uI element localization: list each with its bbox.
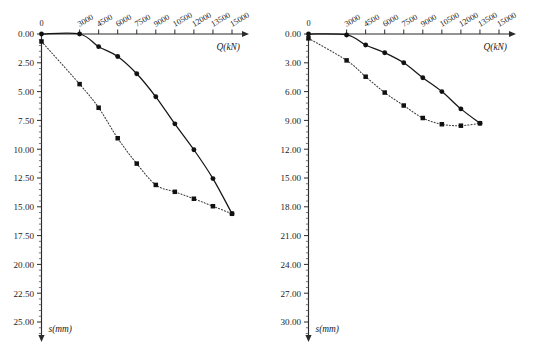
y-tick-label: 20.00	[14, 260, 35, 270]
x-axis-arrow-icon	[242, 31, 249, 37]
y-tick-label: 3.00	[285, 58, 301, 68]
y-tick-label: 0.00	[18, 29, 34, 39]
x-tick-label: 6000	[114, 13, 133, 29]
x-tick-label: 3000	[76, 13, 95, 29]
y-tick-label: 5.00	[18, 87, 34, 97]
x-tick-label: 15000	[496, 11, 518, 29]
data-point-marker	[363, 74, 368, 79]
y-tick-label: 10.00	[14, 145, 35, 155]
data-point-marker	[154, 183, 159, 188]
x-tick-label: 9000	[152, 13, 171, 29]
series-line-dotted-curve	[42, 41, 233, 213]
data-point-marker	[173, 190, 178, 195]
x-tick-label: 4500	[362, 13, 381, 29]
data-point-marker	[363, 43, 368, 48]
chart-panel-right: 0300045006000750090001050012000135001500…	[267, 0, 534, 364]
y-tick-label: 30.00	[281, 317, 302, 327]
x-tick-label: 4500	[95, 13, 114, 29]
data-point-marker	[382, 50, 387, 55]
y-tick-label: 21.00	[281, 231, 302, 241]
y-tick-label: 12.00	[281, 145, 302, 155]
y-axis-arrow-icon	[38, 335, 44, 342]
x-axis-title: Q(kN)	[484, 42, 507, 53]
figure-container: 0300045006000750090001050012000135001500…	[0, 0, 534, 364]
y-tick-label: 2.50	[18, 58, 34, 68]
y-tick-label: 0.00	[285, 29, 301, 39]
chart-right-canvas: 0300045006000750090001050012000135001500…	[267, 0, 534, 364]
x-tick-label: 15000	[229, 11, 251, 29]
chart-left-canvas: 0300045006000750090001050012000135001500…	[0, 0, 267, 364]
data-point-marker	[402, 103, 407, 108]
y-tick-label: 15.00	[14, 202, 35, 212]
y-tick-label: 15.00	[281, 173, 302, 183]
y-tick-label: 6.00	[285, 87, 301, 97]
data-point-marker	[77, 32, 82, 37]
data-point-marker	[401, 60, 406, 65]
x-tick-label: 7500	[400, 13, 419, 29]
y-axis-title: s(mm)	[49, 324, 72, 335]
series-line-dotted-curve	[309, 38, 480, 125]
data-point-marker	[439, 89, 444, 94]
data-point-marker	[191, 147, 196, 152]
y-tick-label: 12.50	[14, 173, 35, 183]
y-tick-label: 18.00	[281, 202, 302, 212]
data-point-marker	[306, 32, 311, 37]
x-axis-arrow-icon	[509, 31, 516, 37]
x-tick-label: 6000	[381, 13, 400, 29]
data-point-marker	[153, 94, 158, 99]
y-tick-label: 17.50	[14, 231, 35, 241]
x-tick-label: 10500	[438, 11, 460, 29]
y-tick-label: 25.00	[14, 317, 35, 327]
data-point-marker	[344, 58, 349, 63]
x-tick-label: 3000	[343, 13, 362, 29]
data-point-marker	[134, 71, 139, 76]
data-point-marker	[230, 211, 235, 216]
data-point-marker	[306, 36, 311, 41]
data-point-marker	[459, 123, 464, 128]
data-point-marker	[115, 136, 120, 141]
chart-panel-left: 0300045006000750090001050012000135001500…	[0, 0, 267, 364]
y-tick-label: 27.00	[281, 289, 302, 299]
x-axis-title: Q(kN)	[217, 42, 240, 53]
data-point-marker	[344, 33, 349, 38]
data-point-marker	[192, 196, 197, 201]
y-axis-title: s(mm)	[316, 324, 339, 335]
x-tick-label: 12000	[457, 11, 479, 29]
x-tick-label: 9000	[419, 13, 438, 29]
y-tick-label: 9.00	[285, 116, 301, 126]
data-point-marker	[382, 90, 387, 95]
data-point-marker	[77, 82, 82, 87]
x-tick-label: 0	[306, 19, 310, 28]
x-tick-label: 12000	[190, 11, 212, 29]
data-point-marker	[135, 161, 140, 166]
data-point-marker	[440, 122, 445, 127]
data-point-marker	[420, 75, 425, 80]
y-tick-label: 7.50	[18, 116, 34, 126]
data-point-marker	[115, 54, 120, 59]
x-tick-label: 13500	[476, 11, 498, 29]
data-point-marker	[39, 32, 44, 37]
data-point-marker	[96, 44, 101, 49]
y-tick-label: 22.50	[14, 289, 35, 299]
series-line-solid-curve	[42, 33, 233, 214]
y-tick-label: 24.00	[281, 260, 302, 270]
data-point-marker	[172, 121, 177, 126]
data-point-marker	[211, 176, 216, 181]
series-line-solid-curve	[309, 34, 480, 123]
data-point-marker	[421, 116, 426, 121]
data-point-marker	[211, 204, 216, 209]
x-tick-label: 0	[39, 19, 43, 28]
y-axis-arrow-icon	[305, 335, 311, 342]
x-tick-label: 10500	[171, 11, 193, 29]
x-tick-label: 7500	[133, 13, 152, 29]
data-point-marker	[39, 39, 44, 44]
x-tick-label: 13500	[209, 11, 231, 29]
data-point-marker	[458, 106, 463, 111]
data-point-marker	[96, 105, 101, 110]
data-point-marker	[478, 121, 483, 126]
